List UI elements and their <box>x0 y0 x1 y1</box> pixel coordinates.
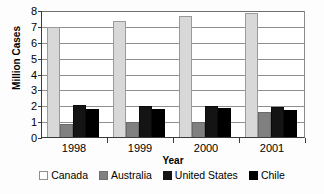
bar-united-states-2001 <box>271 107 284 137</box>
legend-swatch-canada <box>39 171 48 180</box>
y-axis-tick-label: 0 <box>20 133 37 144</box>
legend-item-canada[interactable]: Canada <box>39 170 88 181</box>
y-axis-tick-labels: 012345678 <box>20 11 37 138</box>
x-axis-tick-mark <box>305 138 306 143</box>
legend-item-united-states[interactable]: United States <box>163 170 238 181</box>
x-axis-tick-label: 2000 <box>194 142 218 155</box>
bar-chile-1998 <box>86 109 99 137</box>
y-axis-tick-label: 4 <box>20 69 37 80</box>
plot-area <box>41 11 305 138</box>
bar-group-2000 <box>174 11 240 137</box>
bar-united-states-1998 <box>73 105 86 137</box>
legend-label-australia: Australia <box>111 170 152 181</box>
legend-item-chile[interactable]: Chile <box>249 170 285 181</box>
legend-swatch-united-states <box>163 171 172 180</box>
bar-group-2001 <box>240 11 306 137</box>
bars-layer <box>42 11 304 137</box>
bar-canada-2000 <box>179 16 192 137</box>
bar-australia-2000 <box>192 122 205 137</box>
legend-label-canada: Canada <box>51 170 88 181</box>
x-axis-tick-label: 1998 <box>62 142 86 155</box>
y-axis-tick-label: 3 <box>20 85 37 96</box>
x-axis-title: Year <box>41 155 305 167</box>
bar-canada-1999 <box>113 21 126 137</box>
legend-label-chile: Chile <box>261 170 285 181</box>
legend-swatch-australia <box>99 171 108 180</box>
x-axis-tick-label: 2001 <box>260 142 284 155</box>
bar-canada-1998 <box>47 27 60 137</box>
y-axis-tick-label: 6 <box>20 37 37 48</box>
y-axis-tick-label: 7 <box>20 21 37 32</box>
y-axis-tick-label: 1 <box>20 117 37 128</box>
bar-chile-1999 <box>152 109 165 137</box>
bar-united-states-2000 <box>205 106 218 137</box>
chart-legend: CanadaAustraliaUnited StatesChile <box>0 170 324 181</box>
bar-australia-1999 <box>126 122 139 137</box>
bar-australia-2001 <box>258 112 271 137</box>
bar-canada-2001 <box>245 13 258 137</box>
legend-label-united-states: United States <box>175 170 238 181</box>
bar-group-1999 <box>108 11 174 137</box>
y-axis-tick-label: 8 <box>20 6 37 17</box>
bar-group-1998 <box>42 11 108 137</box>
bar-australia-1998 <box>60 124 73 137</box>
bar-chile-2001 <box>284 110 297 137</box>
legend-swatch-chile <box>249 171 258 180</box>
bar-united-states-1999 <box>139 106 152 137</box>
y-axis-tick-label: 5 <box>20 53 37 64</box>
legend-item-australia[interactable]: Australia <box>99 170 152 181</box>
bar-chile-2000 <box>218 108 231 137</box>
x-axis-tick-label: 1999 <box>128 142 152 155</box>
bar-chart: Million Cases 012345678 1998199920002001… <box>0 0 324 194</box>
y-axis-tick-label: 2 <box>20 101 37 112</box>
